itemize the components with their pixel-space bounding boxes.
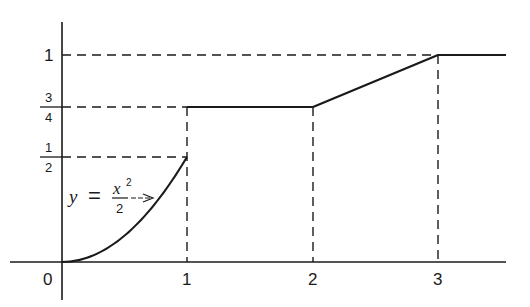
label-y-half-den: 2 [45, 160, 52, 175]
label-x-2: 2 [308, 270, 317, 289]
annotation-y: y [67, 186, 78, 207]
label-x-3: 3 [433, 270, 442, 289]
annotation-numerator: x [112, 179, 121, 198]
label-origin: 0 [43, 270, 52, 289]
label-y-1: 1 [44, 46, 53, 65]
label-y-three-quarters-num: 3 [45, 90, 52, 105]
annotation-equals: = [88, 183, 101, 208]
label-y-three-quarters-den: 4 [45, 110, 52, 125]
segment-ramp [313, 55, 438, 107]
distribution-function-diagram: 0 1 2 3 1 3 4 1 2 y = x 2 2 [0, 0, 530, 307]
annotation-denominator: 2 [116, 201, 123, 216]
annotation-exponent: 2 [126, 177, 132, 188]
label-x-1: 1 [182, 270, 191, 289]
curve-x-squared-over-two [62, 157, 187, 262]
label-y-half-num: 1 [45, 140, 52, 155]
